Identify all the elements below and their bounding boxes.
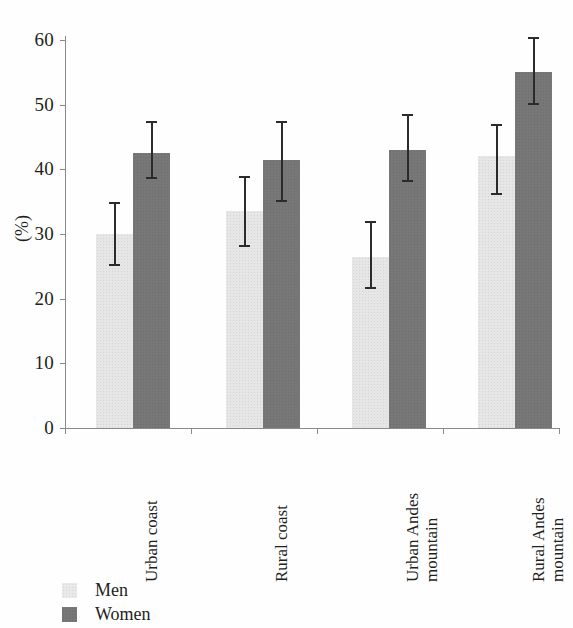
y-axis-tick-label-text: 20 <box>20 289 54 308</box>
y-axis-tick-label: 20 <box>10 289 54 308</box>
y-axis-tick-label: 10 <box>10 353 54 372</box>
error-bar-cap-bottom <box>146 177 157 179</box>
x-axis-category-label-line: mountain <box>548 432 567 582</box>
legend-label-men: Men <box>95 578 128 602</box>
error-bar-cap-top <box>491 124 502 126</box>
x-axis-tick <box>443 428 444 434</box>
legend-swatch-texture <box>62 583 77 598</box>
error-bar-stem <box>281 121 283 202</box>
y-axis-line <box>65 36 66 429</box>
error-bar-cap-bottom <box>491 193 502 195</box>
y-axis-tick <box>60 363 66 364</box>
error-bar-women-4 <box>515 37 552 105</box>
error-bar-cap-top <box>365 221 376 223</box>
y-axis-tick-label-text: 30 <box>20 224 54 243</box>
x-axis-category-label: Rural coast <box>272 432 291 582</box>
error-bar-stem <box>496 124 498 195</box>
error-bar-cap-top <box>276 121 287 123</box>
error-bar-cap-bottom <box>402 180 413 182</box>
bar-chart-figure: (%) 6050403020100 Urban coastRural coast… <box>0 0 573 628</box>
bar-texture <box>478 156 515 428</box>
error-bar-men-1 <box>96 202 133 267</box>
error-bar-cap-bottom <box>276 200 287 202</box>
legend-item-women: Women <box>62 602 151 626</box>
error-bar-men-2 <box>226 176 263 247</box>
legend-swatch-men <box>62 583 77 598</box>
x-axis-category-label-line: Urban coast <box>142 500 161 582</box>
x-axis-tick <box>317 428 318 434</box>
plot-area: (%) 6050403020100 Urban coastRural coast… <box>0 0 573 628</box>
error-bar-women-1 <box>133 121 170 179</box>
y-axis-tick-label-text: 10 <box>20 353 54 372</box>
legend-label-women: Women <box>95 602 151 626</box>
y-axis-tick-label-text: 50 <box>20 95 54 114</box>
error-bar-cap-top <box>146 121 157 123</box>
error-bar-cap-top <box>239 176 250 178</box>
legend-swatch-women <box>62 607 77 622</box>
x-axis-category-label-line: mountain <box>422 432 441 582</box>
bar-texture <box>389 150 426 428</box>
y-axis-tick <box>60 105 66 106</box>
y-axis-tick <box>60 299 66 300</box>
y-axis-tick <box>60 169 66 170</box>
x-axis-category-label-line: Urban Andes <box>403 493 422 582</box>
y-axis-tick-label-text: 60 <box>20 30 54 49</box>
error-bar-cap-bottom <box>239 245 250 247</box>
y-axis-tick-label-text: 40 <box>20 159 54 178</box>
error-bar-cap-top <box>109 202 120 204</box>
legend-swatch-texture <box>62 607 77 622</box>
y-axis-tick <box>60 234 66 235</box>
error-bar-women-3 <box>389 114 426 182</box>
bar-men-4 <box>478 156 515 428</box>
error-bar-cap-bottom <box>365 287 376 289</box>
error-bar-stem <box>407 114 409 182</box>
y-axis-tick-label: 50 <box>10 95 54 114</box>
error-bar-stem <box>533 37 535 105</box>
x-axis-category-label-line: Rural coast <box>272 505 291 582</box>
bar-women-4 <box>515 72 552 428</box>
error-bar-stem <box>114 202 116 267</box>
y-axis-tick-label: 30 <box>10 224 54 243</box>
bar-women-1 <box>133 153 170 428</box>
x-axis-category-label-line: Rural Andes <box>529 497 548 582</box>
x-axis-line <box>65 428 560 429</box>
error-bar-cap-top <box>402 114 413 116</box>
y-axis-tick <box>60 40 66 41</box>
bar-women-3 <box>389 150 426 428</box>
error-bar-men-3 <box>352 221 389 289</box>
legend-item-men: Men <box>62 578 151 602</box>
x-axis-tick <box>65 428 66 434</box>
error-bar-cap-bottom <box>528 103 539 105</box>
y-axis-tick-label: 40 <box>10 159 54 178</box>
error-bar-stem <box>151 121 153 179</box>
error-bar-cap-bottom <box>109 264 120 266</box>
x-axis-tick <box>191 428 192 434</box>
x-axis-category-label: Urban Andesmountain <box>403 432 441 582</box>
error-bar-stem <box>370 221 372 289</box>
y-axis-tick-label: 0 <box>10 418 54 437</box>
y-axis-tick-label: 60 <box>10 30 54 49</box>
error-bar-women-2 <box>263 121 300 202</box>
y-axis-tick-label-text: 0 <box>20 418 54 437</box>
error-bar-stem <box>244 176 246 247</box>
legend: MenWomen <box>62 578 151 626</box>
x-axis-category-label: Rural Andesmountain <box>529 432 567 582</box>
error-bar-cap-top <box>528 37 539 39</box>
bar-texture <box>515 72 552 428</box>
bar-texture <box>133 153 170 428</box>
error-bar-men-4 <box>478 124 515 195</box>
x-axis-category-label: Urban coast <box>142 432 161 582</box>
